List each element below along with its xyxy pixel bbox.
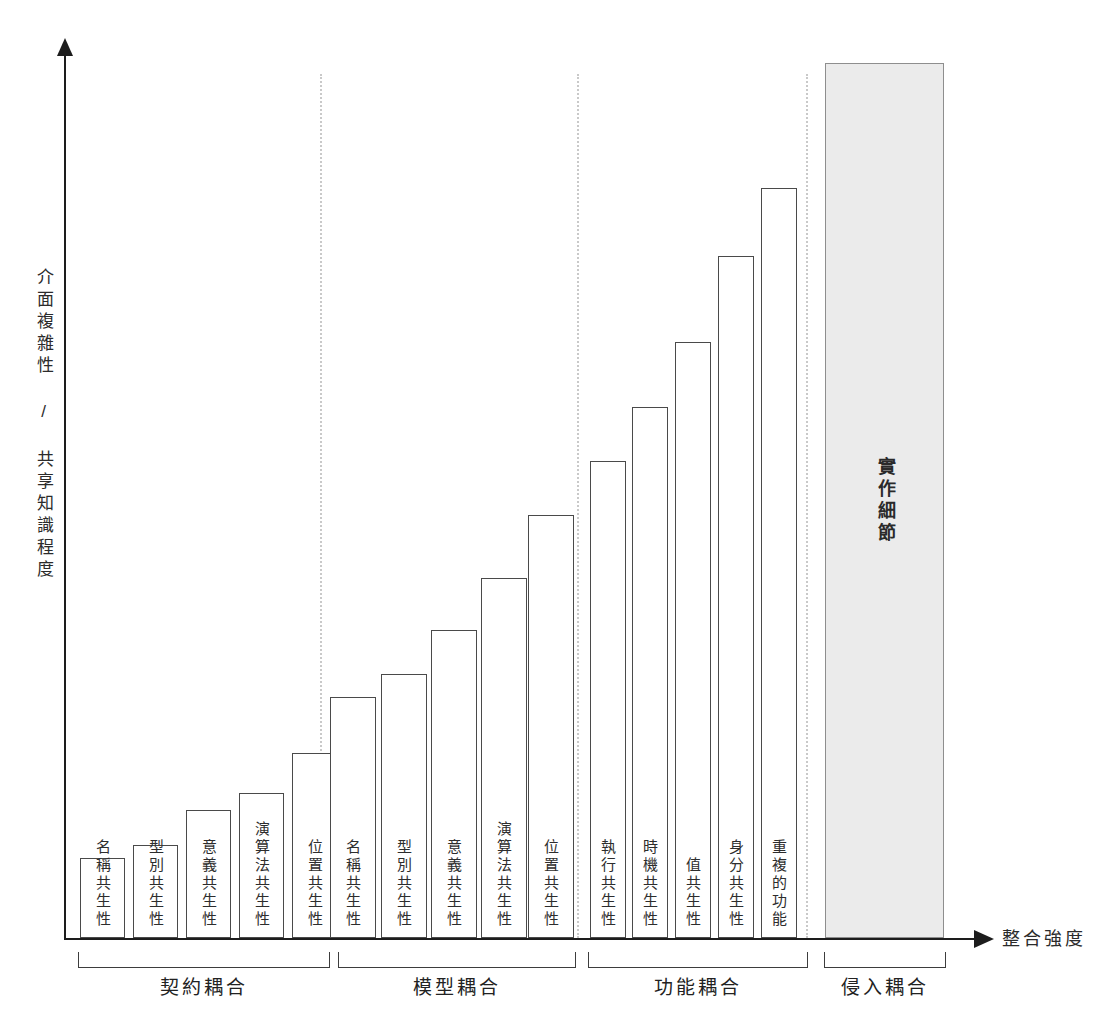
bar-label: 名稱共生性 bbox=[95, 839, 110, 929]
x-axis-title: 整合強度 bbox=[1002, 924, 1086, 950]
bar[interactable]: 位置共生性 bbox=[528, 515, 574, 938]
bar-label: 演算法共生性 bbox=[497, 821, 512, 929]
bar[interactable]: 身分共生性 bbox=[718, 256, 754, 938]
bar[interactable]: 演算法共生性 bbox=[481, 578, 527, 938]
x-axis-line bbox=[64, 938, 979, 940]
group-bracket bbox=[588, 952, 808, 968]
bar-label: 意義共生性 bbox=[447, 839, 462, 929]
bar-label: 型別共生性 bbox=[397, 839, 412, 929]
bar-label: 執行共生性 bbox=[601, 839, 616, 929]
bar[interactable]: 重複的功能 bbox=[761, 188, 797, 938]
bar-label: 位置共生性 bbox=[544, 839, 559, 929]
bar-label: 意義共生性 bbox=[201, 839, 216, 929]
y-axis-line bbox=[64, 52, 66, 940]
bar-label: 時機共生性 bbox=[643, 839, 658, 929]
bar-label: 重複的功能 bbox=[772, 839, 787, 929]
bar[interactable]: 名稱共生性 bbox=[330, 697, 376, 938]
bar-label: 型別共生性 bbox=[148, 839, 163, 929]
bar[interactable]: 意義共生性 bbox=[431, 630, 477, 938]
group-bracket bbox=[78, 952, 330, 968]
bar[interactable]: 值共生性 bbox=[675, 342, 711, 938]
group-separator-3 bbox=[806, 74, 808, 938]
bar[interactable]: 型別共生性 bbox=[133, 845, 178, 938]
bar-label: 值共生性 bbox=[686, 857, 701, 929]
y-axis-arrow-icon bbox=[57, 38, 73, 56]
bar[interactable]: 時機共生性 bbox=[632, 407, 668, 938]
x-axis-arrow-icon bbox=[974, 930, 994, 948]
bar[interactable]: 實作細節 bbox=[825, 63, 944, 938]
y-axis-title: 介面複雜性 / 共享知識程度 bbox=[18, 268, 52, 582]
group-separator-2 bbox=[577, 74, 579, 938]
group-bracket bbox=[338, 952, 576, 968]
group-bracket bbox=[824, 952, 946, 968]
bar[interactable]: 執行共生性 bbox=[590, 461, 626, 938]
bar[interactable]: 意義共生性 bbox=[186, 810, 231, 938]
group-label: 功能耦合 bbox=[588, 972, 808, 999]
group-label: 模型耦合 bbox=[338, 972, 576, 999]
bar[interactable]: 名稱共生性 bbox=[80, 858, 125, 938]
bar-label: 位置共生性 bbox=[307, 839, 322, 929]
bar[interactable]: 型別共生性 bbox=[381, 674, 427, 938]
bar-label: 實作細節 bbox=[876, 457, 894, 545]
bar-label: 名稱共生性 bbox=[346, 839, 361, 929]
group-label: 侵入耦合 bbox=[824, 972, 946, 999]
bar-label: 演算法共生性 bbox=[254, 821, 269, 929]
bar[interactable]: 演算法共生性 bbox=[239, 793, 284, 938]
coupling-strength-bar-chart: 介面複雜性 / 共享知識程度 整合強度 名稱共生性型別共生性意義共生性演算法共生… bbox=[0, 0, 1095, 1017]
group-label: 契約耦合 bbox=[78, 972, 330, 999]
bar-label: 身分共生性 bbox=[729, 839, 744, 929]
